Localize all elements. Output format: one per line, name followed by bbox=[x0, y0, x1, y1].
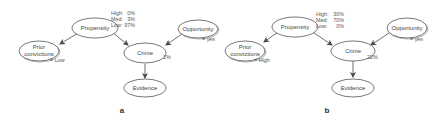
node-opportunity: Opportunity = yes bbox=[178, 20, 219, 42]
node-label-line1: Prior bbox=[33, 44, 46, 50]
propensity-distribution: High: 30% Med: 70% Low: 0% bbox=[316, 11, 344, 29]
node-label: Propensity bbox=[81, 25, 109, 31]
edge-propensity-to-crime bbox=[112, 32, 128, 45]
node-evidence: Evidence bbox=[124, 79, 166, 97]
node-prior-convictions: Prior convictions = High bbox=[225, 41, 270, 63]
node-evidence: Evidence bbox=[332, 79, 374, 97]
panel-label-a: a bbox=[120, 106, 125, 115]
node-propensity: Propensity bbox=[272, 17, 318, 37]
node-label: Crime bbox=[345, 48, 362, 54]
edge-opportunity-to-crime bbox=[371, 33, 389, 45]
dist-value-low: 0% bbox=[336, 23, 344, 29]
observation-value: = yes bbox=[410, 36, 423, 42]
panel-a: Propensity High: 0% Med: 3% Low: 97% Pri… bbox=[19, 10, 219, 115]
node-crime: Crime 22% bbox=[331, 41, 378, 61]
node-label-line1: Prior bbox=[239, 44, 252, 50]
node-label: Crime bbox=[137, 50, 154, 56]
node-label: Evidence bbox=[133, 85, 158, 91]
node-label: Opportunity bbox=[182, 26, 213, 32]
node-label: Propensity bbox=[281, 24, 309, 30]
observation-value: = Low bbox=[50, 57, 65, 63]
panel-label-b: b bbox=[325, 106, 330, 115]
node-prior-convictions: Prior convictions = Low bbox=[19, 41, 65, 63]
observation-value: = High bbox=[254, 57, 270, 63]
panel-b: Propensity High: 30% Med: 70% Low: 0% Pr… bbox=[225, 11, 428, 115]
edge-propensity-to-crime bbox=[311, 31, 332, 45]
dist-value-low: 97% bbox=[124, 22, 135, 28]
propensity-distribution: High: 0% Med: 3% Low: 97% bbox=[111, 10, 135, 28]
edge-opportunity-to-crime bbox=[166, 34, 182, 45]
node-opportunity: Opportunity = yes bbox=[387, 18, 428, 42]
dist-state-low: Low: bbox=[111, 22, 122, 28]
dist-state-low: Low: bbox=[316, 23, 327, 29]
crime-probability: 22% bbox=[367, 54, 378, 60]
node-label: Opportunity bbox=[391, 25, 422, 31]
bayesian-network-figure: Propensity High: 0% Med: 3% Low: 97% Pri… bbox=[0, 0, 442, 118]
node-crime: Crime 1% bbox=[124, 43, 171, 63]
edge-propensity-to-prior-convictions bbox=[60, 33, 78, 44]
observation-value: = yes bbox=[202, 36, 215, 42]
edge-propensity-to-prior-convictions bbox=[264, 32, 278, 42]
crime-probability: 1% bbox=[163, 54, 171, 60]
node-label: Evidence bbox=[341, 85, 366, 91]
